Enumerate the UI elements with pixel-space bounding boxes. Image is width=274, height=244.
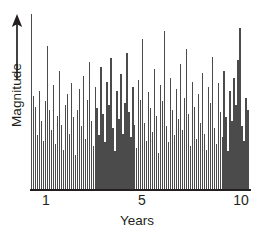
bar-series [31,10,250,189]
x-axis-title: Years [87,213,187,228]
figure-canvas: Magnitude 1 5 10 Years [0,0,274,244]
x-tick-label-5: 5 [132,192,152,208]
y-axis-title: Magnitude [6,45,28,145]
bar [247,110,248,189]
x-tick-label-1: 1 [36,192,56,208]
x-tick-label-10: 10 [228,192,254,208]
plot-area [31,10,250,189]
y-axis-block: Magnitude [0,0,30,192]
x-axis-line [30,189,251,191]
